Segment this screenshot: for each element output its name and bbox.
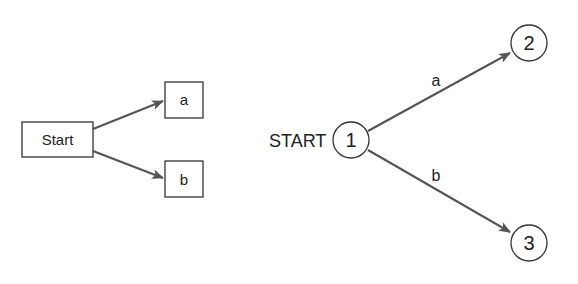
- box-b: b: [165, 161, 203, 197]
- edge-1-to-2: [368, 53, 510, 131]
- node-3: 3: [511, 225, 547, 261]
- start-box-label: Start: [42, 131, 75, 148]
- box-a-label: a: [180, 91, 189, 108]
- node-2-label: 2: [523, 32, 534, 54]
- start-label: START: [269, 131, 326, 151]
- edge-label-a: a: [432, 72, 441, 89]
- edge-start-to-a: [93, 101, 163, 129]
- diagram-canvas: Start a b START a b 1 2 3: [0, 0, 578, 284]
- left-diagram: Start a b: [22, 82, 203, 197]
- node-1: 1: [333, 122, 369, 158]
- box-a: a: [165, 82, 203, 118]
- edge-1-to-3: [368, 150, 510, 232]
- edge-start-to-b: [93, 151, 163, 178]
- start-box: Start: [22, 122, 93, 157]
- node-2: 2: [511, 25, 547, 61]
- edge-label-b: b: [432, 167, 441, 184]
- box-b-label: b: [180, 171, 188, 188]
- node-1-label: 1: [345, 129, 356, 151]
- node-3-label: 3: [523, 232, 534, 254]
- right-diagram: START a b 1 2 3: [269, 25, 547, 261]
